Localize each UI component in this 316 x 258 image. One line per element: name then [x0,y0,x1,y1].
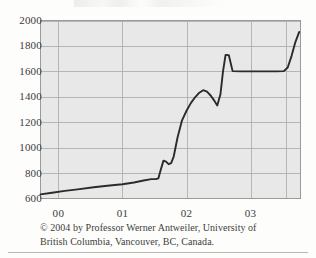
x-axis-tick-labels: 00010203 [0,0,316,258]
x-tick-label-02: 02 [181,208,193,219]
x-tick-label-01: 01 [117,208,129,219]
caption-line-1: © 2004 by Professor Werner Antweiler, Un… [40,221,302,235]
chart-figure: 200018001600140012001000800600 00010203 … [0,0,316,258]
caption-line-2: British Columbia, Vancouver, BC, Canada. [40,235,302,249]
figure-caption: © 2004 by Professor Werner Antweiler, Un… [40,221,302,249]
x-tick-label-00: 00 [53,208,65,219]
x-tick-label-03: 03 [245,208,257,219]
page-bottom-rule [8,252,308,253]
